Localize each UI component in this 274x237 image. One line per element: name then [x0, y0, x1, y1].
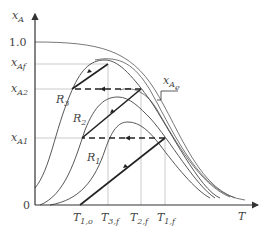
axes [35, 14, 258, 205]
y-tick-xa2: xA2 [11, 83, 28, 97]
y-tick-1: 1.0 [9, 37, 27, 48]
equilibrium-curves [35, 42, 245, 200]
diagram-canvas: xA 1.0 xAf xA2 xA1 0 T1,o T3,f T2,f T1,f… [0, 0, 274, 237]
x-tick-t3f: T3,f [101, 212, 119, 226]
diagram-svg [0, 0, 274, 237]
y-axis-label: xA [12, 10, 24, 24]
curve-r1 [50, 122, 210, 205]
equilibrium-label: xAe [163, 75, 180, 92]
guide-lines [35, 64, 165, 205]
curve-label-r1: R1 [87, 152, 100, 166]
curve-label-r2: R2 [73, 113, 86, 127]
curve-label-r3: R3 [56, 94, 69, 108]
y-tick-0: 0 [23, 200, 30, 211]
x-tick-t1o: T1,o [73, 212, 93, 226]
rate-curves [35, 60, 220, 205]
curve-r3 [35, 60, 220, 198]
x-axis-label: T [238, 211, 245, 222]
y-tick-xaf: xAf [11, 57, 26, 71]
x-tick-t1f: T1,f [157, 212, 175, 226]
x-tick-t2f: T2,f [130, 212, 148, 226]
y-tick-xa1: xA1 [11, 132, 28, 146]
